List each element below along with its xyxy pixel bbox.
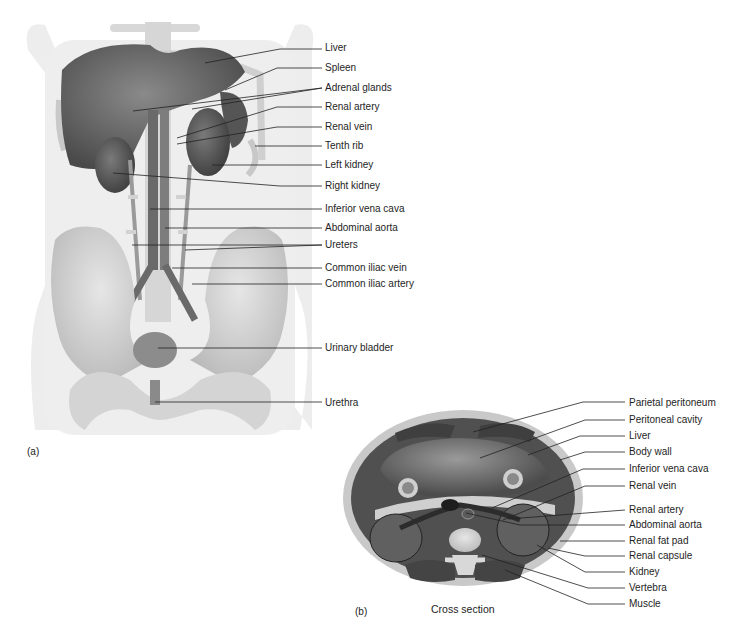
- label-body-wall: Body wall: [629, 446, 672, 458]
- label-renal-fat-pad: Renal fat pad: [629, 535, 689, 547]
- cross-section-caption: Cross section: [431, 603, 495, 615]
- label-liver-a: Liver: [325, 42, 347, 54]
- label-peritoneal-cavity: Peritoneal cavity: [629, 414, 702, 426]
- label-left-kidney: Left kidney: [325, 159, 373, 171]
- label-abdominal-aorta-a: Abdominal aorta: [325, 222, 398, 234]
- label-ureters: Ureters: [325, 239, 358, 251]
- label-renal-vein-b: Renal vein: [629, 480, 676, 492]
- label-urinary-bladder: Urinary bladder: [325, 342, 393, 354]
- label-urethra: Urethra: [325, 397, 358, 409]
- label-common-iliac-vein: Common iliac vein: [325, 262, 407, 274]
- label-inferior-vena-cava-a: Inferior vena cava: [325, 203, 405, 215]
- panel-label-b: (b): [355, 606, 367, 617]
- panel-label-a: (a): [27, 446, 39, 457]
- label-renal-artery-a: Renal artery: [325, 101, 379, 113]
- label-tenth-rib: Tenth rib: [325, 140, 363, 152]
- anatomy-illustration: [0, 0, 737, 636]
- label-right-kidney: Right kidney: [325, 180, 380, 192]
- label-kidney: Kidney: [629, 566, 660, 578]
- label-vertebra: Vertebra: [629, 582, 667, 594]
- label-parietal-peritoneum: Parietal peritoneum: [629, 397, 716, 409]
- figure-a-torso: [27, 22, 313, 435]
- label-abdominal-aorta-b: Abdominal aorta: [629, 519, 702, 531]
- label-inferior-vena-cava-b: Inferior vena cava: [629, 463, 709, 475]
- label-renal-capsule: Renal capsule: [629, 550, 692, 562]
- label-muscle: Muscle: [629, 598, 661, 610]
- label-renal-artery-b: Renal artery: [629, 504, 683, 516]
- label-adrenal-glands: Adrenal glands: [325, 82, 392, 94]
- label-common-iliac-artery: Common iliac artery: [325, 278, 414, 290]
- label-liver-b: Liver: [629, 430, 651, 442]
- label-spleen: Spleen: [325, 62, 356, 74]
- label-renal-vein-a: Renal vein: [325, 121, 372, 133]
- figure-b-cross-section: [343, 410, 583, 586]
